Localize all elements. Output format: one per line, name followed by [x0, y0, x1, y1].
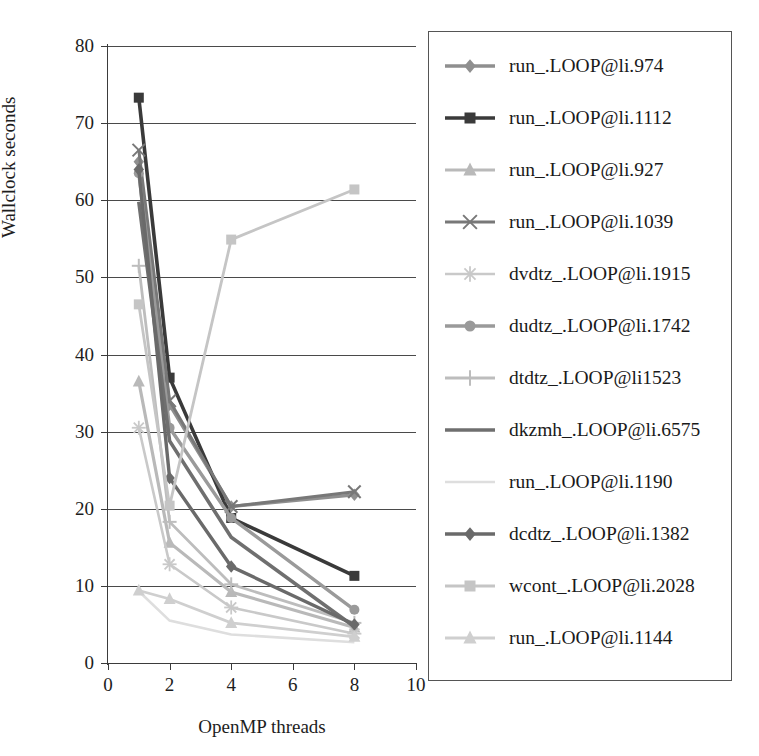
legend-item-label: run_.LOOP@li.1144 [509, 628, 672, 648]
series-lines [108, 46, 416, 663]
data-point-square [349, 571, 359, 581]
data-point-asterisk [132, 421, 146, 435]
data-point-square [226, 235, 236, 245]
legend-item-label: run_.LOOP@li.1112 [509, 108, 672, 128]
y-tick [101, 123, 108, 124]
data-point-plus [462, 370, 477, 385]
x-tick-label: 2 [150, 675, 190, 694]
x-tick-label: 0 [88, 675, 128, 694]
data-point-triangle [133, 584, 145, 596]
data-point-square [134, 93, 144, 103]
y-tick-label: 80 [75, 36, 94, 55]
y-tick-label: 60 [75, 190, 94, 209]
legend-item[interactable]: dcdtz_.LOOP@li.1382 [429, 508, 731, 560]
data-point-triangle [133, 375, 145, 387]
x-tick-label: 4 [211, 675, 251, 694]
legend-item-label: dkzmh_.LOOP@li.6575 [509, 420, 700, 440]
plot-area: 01020304050607080 0246810 [108, 46, 416, 663]
x-axis-label: OpenMP threads [108, 716, 416, 738]
legend: run_.LOOP@li.974run_.LOOP@li.1112run_.LO… [428, 31, 732, 681]
y-tick [101, 432, 108, 433]
data-point-circle [226, 513, 236, 523]
legend-item-label: run_.LOOP@li.974 [509, 56, 663, 76]
legend-item-label: run_.LOOP@li.927 [509, 160, 663, 180]
legend-item[interactable]: dkzmh_.LOOP@li.6575 [429, 404, 731, 456]
y-tick [101, 663, 108, 664]
y-axis-label: Wallclock seconds [0, 97, 20, 238]
legend-item[interactable]: dvdtz_.LOOP@li.1915 [429, 248, 731, 300]
data-point-square [465, 113, 476, 124]
legend-marker-diamond-icon [443, 524, 497, 544]
x-tick [170, 663, 171, 670]
x-tick [416, 663, 417, 670]
legend-marker-square-icon [443, 108, 497, 128]
data-point-square [134, 299, 144, 309]
legend-marker-triangle-icon [443, 160, 497, 180]
y-tick-label: 10 [75, 576, 94, 595]
legend-marker-asterisk-icon [443, 264, 497, 284]
y-tick-label: 20 [75, 499, 94, 518]
legend-item-label: run_.LOOP@li.1039 [509, 212, 673, 232]
legend-item[interactable]: dtdtz_.LOOP@li1523 [429, 352, 731, 404]
legend-item[interactable]: run_.LOOP@li.1190 [429, 456, 731, 508]
legend-marker-x-icon [443, 212, 497, 232]
series-line [139, 162, 355, 507]
legend-marker-line-icon [443, 472, 497, 492]
y-tick-label: 40 [75, 345, 94, 364]
x-tick [354, 663, 355, 670]
y-tick [101, 355, 108, 356]
y-tick [101, 509, 108, 510]
legend-marker-triangle-icon [443, 628, 497, 648]
y-tick-label: 70 [75, 113, 94, 132]
legend-marker-plus-icon [443, 368, 497, 388]
y-tick-label: 30 [75, 422, 94, 441]
legend-marker-line-icon [443, 420, 497, 440]
series-line [139, 169, 355, 624]
legend-item[interactable]: run_.LOOP@li.1039 [429, 196, 731, 248]
legend-item[interactable]: run_.LOOP@li.1144 [429, 612, 731, 664]
y-tick [101, 200, 108, 201]
legend-item[interactable]: wcont_.LOOP@li.2028 [429, 560, 731, 612]
legend-item[interactable]: run_.LOOP@li.974 [429, 40, 731, 92]
legend-item-label: dcdtz_.LOOP@li.1382 [509, 524, 689, 544]
legend-item-label: run_.LOOP@li.1190 [509, 472, 672, 492]
data-point-asterisk [224, 600, 238, 614]
series-line [139, 189, 355, 505]
legend-item-label: dtdtz_.LOOP@li1523 [509, 368, 681, 388]
y-tick-label: 50 [75, 267, 94, 286]
x-axis-line [107, 663, 416, 664]
legend-item[interactable]: dudtz_.LOOP@li.1742 [429, 300, 731, 352]
legend-item-label: wcont_.LOOP@li.2028 [509, 576, 695, 596]
data-point-diamond [464, 59, 476, 73]
y-tick-label: 0 [85, 653, 95, 672]
chart-root: Wallclock seconds 01020304050607080 0246… [0, 0, 759, 756]
data-point-square [165, 501, 175, 511]
data-point-square [465, 581, 476, 592]
legend-marker-diamond-icon [443, 56, 497, 76]
legend-marker-circle-icon [443, 316, 497, 336]
legend-item-label: dvdtz_.LOOP@li.1915 [509, 264, 691, 284]
data-point-circle [465, 321, 476, 332]
legend-item[interactable]: run_.LOOP@li.1112 [429, 92, 731, 144]
x-tick [231, 663, 232, 670]
x-tick-label: 6 [273, 675, 313, 694]
data-point-diamond [464, 527, 476, 541]
y-tick [101, 46, 108, 47]
x-tick [293, 663, 294, 670]
legend-item[interactable]: run_.LOOP@li.927 [429, 144, 731, 196]
data-point-plus [132, 259, 146, 273]
data-point-circle [349, 605, 359, 615]
data-point-square [349, 184, 359, 194]
x-tick [108, 663, 109, 670]
y-tick [101, 586, 108, 587]
legend-marker-square-icon [443, 576, 497, 596]
legend-item-label: dudtz_.LOOP@li.1742 [509, 316, 691, 336]
data-point-asterisk [462, 266, 477, 281]
x-tick-label: 8 [334, 675, 374, 694]
y-tick [101, 277, 108, 278]
data-point-asterisk [163, 557, 177, 571]
